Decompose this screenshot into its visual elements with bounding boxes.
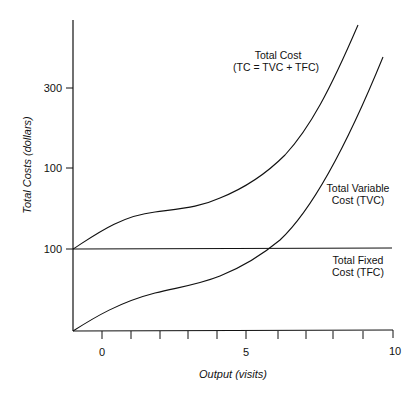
y-ticks xyxy=(66,88,73,249)
x-axis xyxy=(73,330,393,331)
tvc-label-line1: Total Variable xyxy=(327,182,390,194)
tfc-label-line2: Cost (TFC) xyxy=(332,266,384,278)
y-tick-label-300: 300 xyxy=(44,82,62,94)
y-tick-label-100-lower: 100 xyxy=(44,243,62,255)
cost-curves-chart: 300 100 100 0 5 10 Output (visits) Total… xyxy=(0,0,418,400)
tvc-label-line2: Cost (TVC) xyxy=(332,194,385,206)
x-tick-label-10: 10 xyxy=(389,345,401,357)
tfc-line xyxy=(73,248,392,249)
tc-curve xyxy=(73,25,358,249)
x-tick-label-5: 5 xyxy=(243,346,249,358)
tc-label-line1: Total Cost xyxy=(255,49,302,61)
y-tick-label-100-upper: 100 xyxy=(44,162,62,174)
tfc-label-line1: Total Fixed xyxy=(333,254,384,266)
x-axis-title: Output (visits) xyxy=(199,368,267,380)
x-tick-label-0: 0 xyxy=(99,346,105,358)
tc-label-line2: (TC = TVC + TFC) xyxy=(233,61,319,73)
y-axis-title: Total Costs (dollars) xyxy=(21,116,33,214)
